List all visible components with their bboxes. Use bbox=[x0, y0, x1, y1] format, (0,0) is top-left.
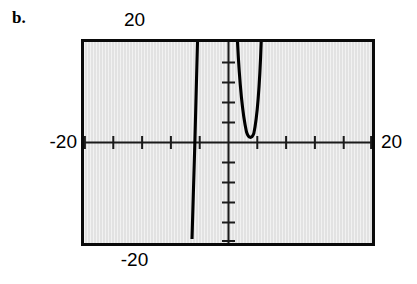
axis-label-left: -20 bbox=[50, 131, 77, 153]
axis-label-bottom: -20 bbox=[0, 249, 417, 271]
plot-area bbox=[84, 42, 372, 243]
curve-vertical-branch bbox=[192, 42, 198, 239]
axis-label-top: 20 bbox=[0, 9, 417, 31]
calculator-screen bbox=[81, 39, 375, 246]
axis-label-right: 20 bbox=[381, 131, 402, 153]
graph-figure: b. 20 -20 20 -20 bbox=[0, 0, 417, 284]
curve-parabola-branch bbox=[238, 42, 262, 137]
